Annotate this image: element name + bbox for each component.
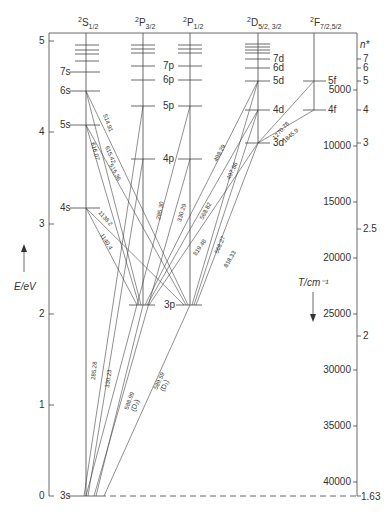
- svg-text:285.30: 285.30: [155, 200, 165, 220]
- left-axis-labels: 543 210: [39, 35, 45, 501]
- svg-text:498.29: 498.29: [213, 143, 227, 163]
- d-levels: [245, 44, 270, 143]
- svg-text:616.07: 616.07: [90, 142, 101, 162]
- svg-text:5d: 5d: [273, 75, 284, 86]
- s-levels: [68, 45, 100, 496]
- svg-text:4s: 4s: [60, 202, 71, 213]
- svg-text:5: 5: [39, 35, 45, 46]
- svg-text:5: 5: [363, 75, 369, 86]
- wavenumber-arrow-head: [310, 314, 316, 322]
- header-P12: 2P1/2: [183, 16, 203, 30]
- nstar-title: n*: [360, 39, 371, 50]
- svg-text:7s: 7s: [60, 66, 71, 77]
- svg-text:1140.4: 1140.4: [99, 232, 114, 251]
- svg-text:818.33: 818.33: [223, 249, 238, 268]
- svg-text:35000: 35000: [323, 420, 351, 431]
- svg-text:6: 6: [363, 62, 369, 73]
- svg-text:5s: 5s: [60, 119, 71, 130]
- svg-text:6s: 6s: [60, 85, 71, 96]
- svg-text:819.48: 819.48: [192, 238, 208, 257]
- svg-text:1.63: 1.63: [361, 491, 381, 502]
- svg-text:4: 4: [363, 104, 369, 115]
- p12-levels: [176, 45, 202, 305]
- svg-text:330.29: 330.29: [176, 202, 187, 222]
- svg-text:2.5: 2.5: [363, 223, 377, 234]
- svg-text:3: 3: [363, 137, 369, 148]
- svg-text:0: 0: [39, 490, 45, 501]
- svg-text:615.42: 615.42: [104, 145, 117, 165]
- svg-text:40000: 40000: [323, 476, 351, 487]
- svg-text:515.36: 515.36: [108, 163, 122, 183]
- svg-text:285.28: 285.28: [90, 361, 98, 381]
- left-axis-title: E/eV: [14, 281, 37, 292]
- f-levels: [303, 81, 326, 110]
- svg-text:5p: 5p: [163, 100, 175, 111]
- svg-text:25000: 25000: [323, 308, 351, 319]
- svg-text:4f: 4f: [328, 104, 337, 115]
- svg-text:5000: 5000: [329, 84, 352, 95]
- p32-levels: [129, 45, 155, 305]
- svg-text:4: 4: [39, 126, 45, 137]
- svg-text:514.91: 514.91: [102, 113, 114, 133]
- header-P32: 2P3/2: [135, 16, 155, 30]
- header-D: 2D5/2, 3/2: [247, 16, 282, 30]
- svg-text:2: 2: [363, 330, 369, 341]
- svg-text:330.23: 330.23: [104, 368, 113, 388]
- svg-text:7p: 7p: [163, 60, 175, 71]
- level-labels: 7s6s5s4s 3s 7p6p5p4p 3p 7d6d5d4d3d 5f4f: [60, 53, 337, 501]
- wavelength-labels: 514.91 615.42 616.07 515.36 1138.2 1140.…: [90, 113, 300, 412]
- svg-text:20000: 20000: [323, 252, 351, 263]
- column-headers: 2S1/2 2P3/2 2P1/2 2D5/2, 3/2 2F7/2,5/2: [78, 16, 342, 30]
- left-axis-ticks: [49, 41, 54, 496]
- grotrian-diagram: 2S1/2 2P3/2 2P1/2 2D5/2, 3/2 2F7/2,5/2 7…: [0, 0, 390, 512]
- wavenumber-title: T/cm⁻¹: [298, 277, 329, 288]
- energy-arrow-head: [21, 244, 27, 252]
- svg-text:568.27: 568.27: [213, 235, 226, 255]
- svg-text:2: 2: [39, 308, 45, 319]
- svg-text:3: 3: [39, 218, 45, 229]
- svg-text:10000: 10000: [323, 140, 351, 151]
- header-S: 2S1/2: [78, 16, 98, 30]
- nstar-tick-labels: 765 432.5 21.63: [361, 53, 381, 502]
- svg-text:6p: 6p: [163, 74, 175, 85]
- svg-text:1: 1: [39, 399, 45, 410]
- header-F: 2F7/2,5/2: [310, 16, 342, 30]
- svg-text:4p: 4p: [163, 153, 175, 164]
- svg-text:15000: 15000: [323, 196, 351, 207]
- svg-text:4d: 4d: [273, 104, 284, 115]
- svg-text:30000: 30000: [323, 364, 351, 375]
- svg-text:3p: 3p: [164, 299, 176, 310]
- svg-text:6d: 6d: [273, 62, 284, 73]
- svg-text:3s: 3s: [60, 490, 71, 501]
